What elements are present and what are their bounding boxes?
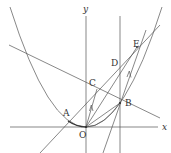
point-o-dot — [85, 126, 87, 128]
point-d-label: D — [111, 58, 118, 68]
y-axis-label: y — [82, 4, 89, 14]
line-acb — [9, 45, 160, 118]
arrow-marker-be — [127, 71, 131, 78]
point-b-dot — [119, 102, 121, 104]
point-b-label: B — [125, 98, 132, 108]
segment-oc — [86, 89, 97, 127]
point-e-label: E — [133, 39, 140, 49]
point-c-label: C — [89, 78, 96, 88]
x-axis-label: x — [162, 122, 167, 132]
point-a-label: A — [62, 108, 70, 118]
geometry-diagram: y x O A B C D E — [0, 0, 171, 153]
line-through-d — [40, 25, 160, 153]
origin-label: O — [79, 130, 86, 140]
